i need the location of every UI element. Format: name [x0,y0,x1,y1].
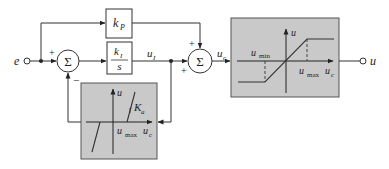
sat-umin-sub: min [259,52,270,60]
input-terminal [24,58,30,64]
sat-umax-label: u [299,65,304,76]
output-terminal [360,58,366,64]
summer1-sign-minus: − [73,74,79,86]
summer2-sign-top: + [189,38,195,49]
deadzone-block: u K a u max u c [81,83,157,159]
sat-umax-sub: max [307,71,320,79]
kp-label: k [113,16,119,30]
output-label: u [370,54,376,68]
sat-x-label: u [325,65,330,76]
dz-umax-sub: max [125,131,138,139]
ki-den: s [117,60,121,72]
dz-umax-label: u [117,125,122,136]
summer2-sign-left: + [181,65,187,76]
sat-y-label: u [291,27,296,38]
dz-y-label: u [117,87,122,98]
pi-antiwindup-block-diagram: e k P Σ + − k I s u I Σ + + u c u u min … [0,0,389,169]
input-label: e [14,54,20,68]
summer2-symbol: Σ [196,54,204,69]
sat-umin-label: u [251,47,256,58]
dz-slope-sub: a [141,108,145,116]
kp-sub: P [119,23,125,32]
summer1-sign-plus: + [49,47,55,58]
summer1-symbol: Σ [64,54,72,69]
wire-feedback-to-deadzone [158,61,171,122]
saturation-block: u u min u max u c [231,18,339,97]
dz-x-label: u [143,125,148,136]
kp-block [106,9,132,38]
